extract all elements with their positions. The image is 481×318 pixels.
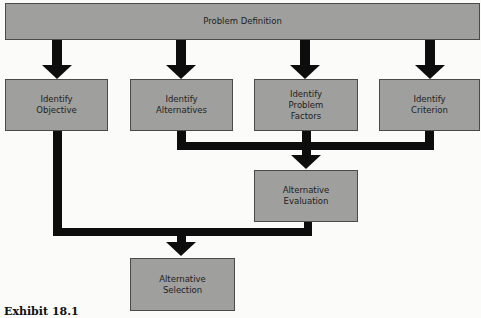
alternative-selection-label: Alternative Selection: [159, 274, 206, 296]
arrow-shaft-alternatives: [176, 40, 186, 66]
arrow-head-objective: [42, 65, 72, 79]
arrow-head-evaluation: [291, 155, 321, 169]
arrow-shaft-objective: [52, 40, 62, 66]
identify-problem-factors-label: Identify Problem Factors: [289, 89, 324, 122]
identify-alternatives-label: Identify Alternatives: [156, 94, 207, 116]
identify-criterion-box: Identify Criterion: [379, 79, 480, 131]
connector-horizontal-selection: [53, 228, 312, 236]
connector-objective-down: [53, 131, 62, 236]
arrow-head-alternatives: [166, 65, 196, 79]
alternative-evaluation-box: Alternative Evaluation: [254, 170, 358, 222]
alternative-selection-box: Alternative Selection: [130, 258, 235, 311]
identify-objective-label: Identify Objective: [36, 94, 76, 116]
identify-alternatives-box: Identify Alternatives: [130, 79, 233, 131]
connector-horizontal-evaluation: [177, 142, 434, 150]
arrow-shaft-criterion: [425, 40, 435, 66]
identify-problem-factors-box: Identify Problem Factors: [254, 79, 358, 131]
identify-criterion-label: Identify Criterion: [411, 94, 448, 116]
problem-definition-box: Problem Definition: [5, 3, 480, 40]
arrow-shaft-factors: [300, 40, 310, 66]
problem-definition-label: Problem Definition: [203, 16, 282, 27]
identify-objective-box: Identify Objective: [5, 79, 108, 131]
arrow-head-selection: [166, 242, 196, 256]
arrow-head-criterion: [415, 65, 445, 79]
arrow-head-factors: [290, 65, 320, 79]
alternative-evaluation-label: Alternative Evaluation: [283, 185, 330, 207]
exhibit-caption: Exhibit 18.1: [4, 305, 79, 318]
